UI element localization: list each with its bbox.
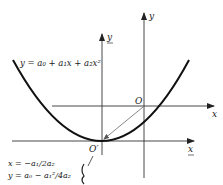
vertex-y-equation: y = a₀ − a₁²/4a₂ (7, 171, 71, 180)
diagram-canvas: y = a₀ + a₁x + a₂x² y x O y x O′ x = −a₁… (0, 0, 223, 185)
shifted-x-axis-label: x (188, 144, 193, 154)
shifted-y-axis-label: y (106, 32, 113, 42)
translation-arrow (104, 107, 143, 139)
x-axis-label: x (212, 109, 217, 119)
y-axis-label: y (148, 11, 155, 21)
origin-label: O (135, 96, 143, 106)
curve-equation-label: y = a₀ + a₁x + a₂x² (19, 58, 101, 68)
shifted-origin-label: O′ (89, 144, 98, 154)
leader-line (88, 156, 93, 166)
parabola-curve (13, 60, 189, 141)
brace-mark (82, 164, 84, 184)
vertex-x-equation: x = −a₁/2a₂ (8, 159, 55, 168)
